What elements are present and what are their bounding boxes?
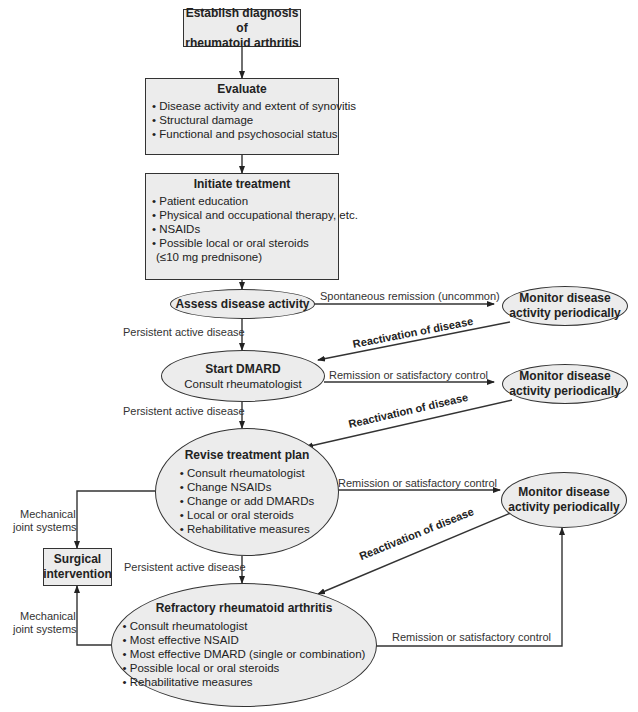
- refractory-item: Most effective NSAID: [123, 633, 366, 647]
- evaluate-item: Structural damage: [152, 113, 332, 127]
- initiate-item: NSAIDs: [152, 222, 332, 236]
- initiate-note: (≤10 mg prednisone): [152, 250, 332, 264]
- start-dmard-subtitle: Consult rheumatologist: [184, 377, 302, 391]
- revise-item: Local or oral steroids: [180, 508, 314, 522]
- refractory-list: Consult rheumatologist Most effective NS…: [123, 619, 366, 689]
- edge-label-spontaneous: Spontaneous remission (uncommon): [320, 290, 500, 303]
- monitor3-line1: Monitor disease: [518, 485, 609, 500]
- surgical-intervention-box: Surgical intervention: [43, 548, 112, 586]
- initiate-item: Patient education: [152, 194, 332, 208]
- monitor3-line2: activity periodically: [508, 500, 619, 515]
- surgical-line1: Surgical: [54, 552, 101, 567]
- diagnosis-line2: rheumatoid arthritis: [185, 36, 298, 51]
- monitor-node-1: Monitor disease activity periodically: [502, 286, 628, 326]
- revise-treatment-node: Revise treatment plan Consult rheumatolo…: [155, 428, 339, 556]
- refractory-ra-node: Refractory rheumatoid arthritis Consult …: [111, 583, 377, 707]
- edge-label-remission-3: Remission or satisfactory control: [392, 631, 551, 644]
- evaluate-title: Evaluate: [152, 82, 332, 97]
- start-dmard-title: Start DMARD: [205, 362, 280, 377]
- revise-title: Revise treatment plan: [185, 448, 310, 463]
- refractory-item: Most effective DMARD (single or combinat…: [123, 647, 366, 661]
- edge-label-remission-2: Remission or satisfactory control: [338, 477, 497, 490]
- initiate-item: Physical and occupational therapy, etc.: [152, 208, 332, 222]
- edge-label-mechanical-2b: joint systems: [13, 623, 77, 636]
- edge-label-remission-1: Remission or satisfactory control: [329, 369, 488, 382]
- revise-item: Change NSAIDs: [180, 480, 314, 494]
- evaluate-item: Functional and psychosocial status: [152, 127, 332, 141]
- monitor-node-3: Monitor disease activity periodically: [501, 472, 627, 528]
- evaluate-box: Evaluate Disease activity and extent of …: [145, 78, 339, 155]
- monitor-node-2: Monitor disease activity periodically: [502, 364, 628, 404]
- edge-label-mechanical-1a: Mechanical: [20, 508, 76, 521]
- monitor1-line1: Monitor disease: [519, 291, 610, 306]
- revise-list: Consult rheumatologist Change NSAIDs Cha…: [180, 466, 314, 536]
- assess-activity-node: Assess disease activity: [170, 289, 315, 319]
- refractory-item: Possible local or oral steroids: [123, 661, 366, 675]
- edge-label-persistent-3: Persistent active disease: [124, 561, 246, 574]
- evaluate-item: Disease activity and extent of synovitis: [152, 99, 332, 113]
- diagnosis-line1: Establish diagnosis of: [184, 6, 300, 36]
- revise-item: Consult rheumatologist: [180, 466, 314, 480]
- monitor1-line2: activity periodically: [509, 306, 620, 321]
- initiate-list: Patient education Physical and occupatio…: [152, 194, 332, 250]
- initiate-treatment-box: Initiate treatment Patient education Phy…: [145, 173, 339, 280]
- initiate-title: Initiate treatment: [152, 177, 332, 192]
- monitor2-line2: activity periodically: [509, 384, 620, 399]
- revise-item: Change or add DMARDs: [180, 494, 314, 508]
- start-dmard-node: Start DMARD Consult rheumatologist: [161, 350, 325, 402]
- surgical-line2: intervention: [43, 567, 112, 582]
- refractory-title: Refractory rheumatoid arthritis: [156, 601, 333, 616]
- assess-title: Assess disease activity: [175, 297, 309, 312]
- refractory-item: Consult rheumatologist: [123, 619, 366, 633]
- revise-item: Rehabilitative measures: [180, 522, 314, 536]
- evaluate-list: Disease activity and extent of synovitis…: [152, 99, 332, 141]
- edge-label-mechanical-1b: joint systems: [13, 521, 77, 534]
- monitor2-line1: Monitor disease: [519, 369, 610, 384]
- diagnosis-box: Establish diagnosis of rheumatoid arthri…: [183, 9, 301, 47]
- refractory-item: Rehabilitative measures: [123, 675, 366, 689]
- edge-label-persistent-1: Persistent active disease: [123, 326, 245, 339]
- edge-label-mechanical-2a: Mechanical: [20, 610, 76, 623]
- initiate-item: Possible local or oral steroids: [152, 236, 332, 250]
- edge-label-persistent-2: Persistent active disease: [123, 405, 245, 418]
